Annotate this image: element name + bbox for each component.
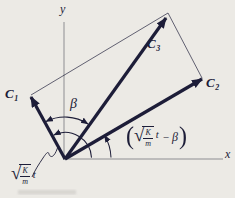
vector-c1-symbol: C: [5, 86, 14, 101]
c2-phase-label: (√Kmt−β): [126, 126, 187, 148]
radicand-denominator: m: [22, 177, 28, 186]
c2-phase-math: (√Kmt−β): [126, 126, 187, 148]
caption-smudge: [18, 190, 76, 195]
radical-sign: √: [134, 125, 144, 144]
vector-diagram-figure: y x β C1 C2 C3 √Kmt (√Kmt−β): [0, 0, 235, 198]
radicand-denominator: m: [145, 139, 151, 148]
origin-phase-label: √Kmt: [11, 164, 36, 186]
radicand-numerator: K: [143, 129, 152, 139]
open-paren: (: [126, 126, 134, 149]
y-axis-label: y: [60, 3, 65, 15]
beta-label: β: [70, 97, 77, 111]
vector-c2-symbol: C: [206, 75, 215, 90]
c2-angle-arc: [104, 135, 111, 157]
time-variable: t: [156, 130, 159, 141]
time-variable: t: [33, 170, 36, 181]
vector-c2-subscript: 2: [215, 83, 219, 92]
vector-c3-label: C3: [147, 37, 160, 50]
beta-angle-arc: [46, 117, 88, 124]
radicand-numerator: K: [20, 167, 29, 177]
minus-sign: −: [163, 132, 169, 143]
vector-c1-subscript: 1: [14, 94, 18, 103]
vector-c1-label: C1: [5, 87, 18, 100]
radical-sign: √: [11, 163, 21, 182]
vector-c3-subscript: 3: [156, 44, 160, 53]
x-axis-label: x: [225, 148, 230, 160]
beta-symbol: β: [172, 131, 178, 143]
vector-c3-symbol: C: [147, 36, 156, 51]
vector-c1: [31, 97, 65, 159]
origin-phase-math: √Kmt: [11, 164, 36, 186]
close-paren: ): [179, 126, 187, 149]
vector-c2-label: C2: [206, 76, 219, 89]
parallelogram-lines: [31, 13, 202, 95]
